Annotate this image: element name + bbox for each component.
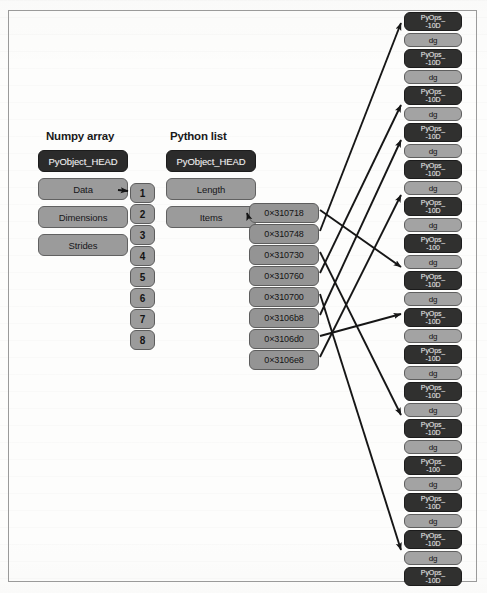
pointer-row: 0×310700 [249, 287, 319, 307]
heap-object-header-line2: -10D [426, 170, 441, 178]
pointer-row: 0×3106b8 [249, 308, 319, 328]
heap-object-header-line2: -10D [426, 503, 441, 511]
heap-object-header: PyOps_ -10D [404, 345, 462, 364]
data-cell: 4 [130, 246, 155, 266]
heap-object-header: PyOps_ -10D [404, 530, 462, 549]
heap-object-header: PyOps_ -10D [404, 160, 462, 179]
heap-object-header-line2: -10D [426, 429, 441, 437]
heap-object-header-line1: PyOps_ [421, 384, 445, 392]
data-cell: 6 [130, 288, 155, 308]
figure-canvas: Numpy array Python list PyObject_HEAD Da… [0, 0, 487, 593]
heap-object-header: PyOps_ -10D [404, 308, 462, 327]
heap-object-header: PyOps_ -10D [404, 123, 462, 142]
numpy-field-strides: Strides [38, 234, 128, 256]
heap-object-header-line2: -10D [426, 540, 441, 548]
heap-object-value: dg [404, 477, 462, 491]
heap-object-header-line2: -10D [426, 577, 441, 585]
heap-object-header-line1: PyOps_ [421, 88, 445, 96]
pylist-field-length: Length [166, 178, 256, 200]
heap-object-header: PyOps_ -10D [404, 86, 462, 105]
heap-object-header-line2: -10D [426, 207, 441, 215]
pylist-field-pyobject-head: PyObject_HEAD [166, 150, 256, 172]
heap-object-header: PyOps_ -10D [404, 197, 462, 216]
heap-object-value: dg [404, 366, 462, 380]
heap-object-header: PyOps_ -10D [404, 567, 462, 586]
heap-object-value: dg [404, 33, 462, 47]
heap-object-header: PyOps_ -10D [404, 12, 462, 31]
heap-object-header-line1: PyOps_ [421, 310, 445, 318]
heap-object-header-line1: PyOps_ [421, 236, 445, 244]
heap-object-value: dg [404, 181, 462, 195]
pointer-row: 0×310748 [249, 224, 319, 244]
data-cell: 3 [130, 225, 155, 245]
data-cell: 5 [130, 267, 155, 287]
data-cell: 2 [130, 204, 155, 224]
heap-object-header-line2: -10D [426, 133, 441, 141]
heap-object-value: dg [404, 218, 462, 232]
heap-object-value: dg [404, 70, 462, 84]
heap-object-header-line2: -10D [426, 59, 441, 67]
heap-object-header-line2: -10D [426, 22, 441, 30]
heap-object-value: dg [404, 403, 462, 417]
heap-object-header: PyOps_ -100 [404, 234, 462, 253]
data-cell: 7 [130, 309, 155, 329]
heap-object-header-line1: PyOps_ [421, 495, 445, 503]
pylist-field-items: Items [166, 206, 256, 228]
heap-object-value: dg [404, 329, 462, 343]
heap-object-header: PyOps_ -10D [404, 382, 462, 401]
python-list-title: Python list [170, 130, 227, 142]
heap-object-header-line1: PyOps_ [421, 458, 445, 466]
heap-object-header-line1: PyOps_ [421, 347, 445, 355]
data-cell: 1 [130, 183, 155, 203]
heap-object-header-line1: PyOps_ [421, 569, 445, 577]
heap-object-value: dg [404, 551, 462, 565]
pointer-row: 0×310718 [249, 203, 319, 223]
heap-object-header-line1: PyOps_ [421, 162, 445, 170]
heap-object-header: PyOps_ -10D [404, 419, 462, 438]
numpy-field-pyobject-head: PyObject_HEAD [38, 150, 128, 172]
pointer-row: 0×3106d0 [249, 329, 319, 349]
heap-object-header: PyOps_ -10D [404, 493, 462, 512]
pointer-row: 0×310760 [249, 266, 319, 286]
heap-object-value: dg [404, 514, 462, 528]
heap-object-header-line1: PyOps_ [421, 199, 445, 207]
heap-object-value: dg [404, 292, 462, 306]
heap-object-header-line2: -10D [426, 318, 441, 326]
heap-object-header: PyOps_ -10D [404, 49, 462, 68]
numpy-array-title: Numpy array [46, 130, 114, 142]
heap-object-header-line1: PyOps_ [421, 51, 445, 59]
heap-object-header: PyOps_ -10D [404, 271, 462, 290]
heap-object-header-line2: -100 [426, 244, 440, 252]
heap-object-header: PyOps_ -100 [404, 456, 462, 475]
pointer-row: 0×3106e8 [249, 350, 319, 370]
heap-object-header-line2: -10D [426, 281, 441, 289]
heap-object-value: dg [404, 440, 462, 454]
pointer-row: 0×310730 [249, 245, 319, 265]
heap-object-value: dg [404, 144, 462, 158]
heap-object-header-line1: PyOps_ [421, 14, 445, 22]
heap-object-header-line2: -100 [426, 466, 440, 474]
data-cell: 8 [130, 330, 155, 350]
heap-object-header-line1: PyOps_ [421, 421, 445, 429]
heap-object-header-line2: -10D [426, 355, 441, 363]
numpy-field-data: Data [38, 178, 128, 200]
numpy-field-dimensions: Dimensions [38, 206, 128, 228]
heap-object-value: dg [404, 107, 462, 121]
heap-object-value: dg [404, 255, 462, 269]
heap-object-header-line1: PyOps_ [421, 532, 445, 540]
heap-object-header-line1: PyOps_ [421, 273, 445, 281]
heap-object-header-line2: -10D [426, 392, 441, 400]
heap-object-header-line1: PyOps_ [421, 125, 445, 133]
heap-object-header-line2: -10D [426, 96, 441, 104]
